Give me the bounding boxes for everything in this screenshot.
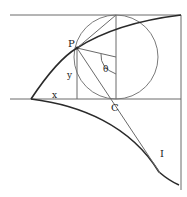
label-p: P <box>68 38 75 49</box>
radius-p-center <box>77 48 116 57</box>
label-y: y <box>66 70 73 80</box>
label-x: x <box>52 90 57 100</box>
label-c: C <box>111 102 119 113</box>
point-p-dot <box>76 47 79 50</box>
label-theta: θ <box>103 64 108 74</box>
lower-curve <box>31 99 179 185</box>
label-i: I <box>160 148 164 159</box>
diagram-canvas: P C I x y θ <box>0 0 187 197</box>
